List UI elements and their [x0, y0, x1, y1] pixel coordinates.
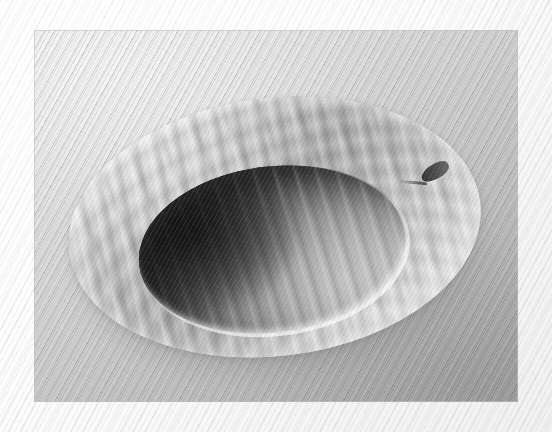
bowl-cavity	[129, 151, 415, 348]
photograph	[34, 30, 518, 402]
wooden-bowl	[35, 54, 514, 402]
screenshot-canvas: Grayscale photograph of a shallow turned…	[0, 0, 552, 432]
